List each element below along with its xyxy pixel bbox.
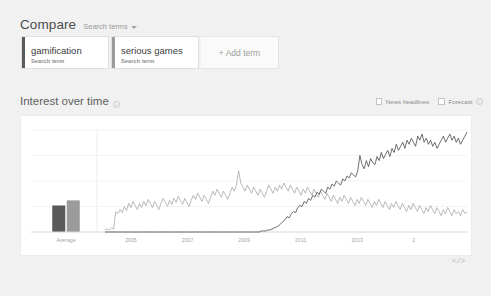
chart-controls: News headlines Forecast i xyxy=(376,98,483,105)
embed-icon: </> xyxy=(452,256,465,265)
search-scope-dropdown[interactable]: Search terms xyxy=(83,22,137,31)
series-line-gamification xyxy=(105,132,467,232)
compare-header: Compare Search terms xyxy=(20,17,137,32)
forecast-toggle[interactable]: Forecast i xyxy=(438,98,483,105)
search-term-subtitle: Search term xyxy=(121,57,198,65)
search-terms-row: gamification Search term serious games S… xyxy=(21,36,279,69)
search-term-card-1[interactable]: serious games Search term xyxy=(111,36,199,69)
search-term-name: gamification xyxy=(31,45,108,56)
chart-canvas: 200520072009201120132 Average xyxy=(21,116,473,257)
news-headlines-label: News headlines xyxy=(386,98,430,105)
checkbox-icon[interactable] xyxy=(438,98,445,105)
info-icon[interactable]: i xyxy=(476,98,483,105)
average-bar xyxy=(67,200,80,232)
checkbox-icon[interactable] xyxy=(376,98,383,105)
x-axis-tick-label: 2009 xyxy=(238,237,250,243)
google-trends-page: Compare Search terms gamification Search… xyxy=(0,0,491,296)
average-bar xyxy=(52,205,65,232)
x-axis-tick-label: 2 xyxy=(412,237,415,243)
info-icon[interactable]: i xyxy=(113,101,120,108)
add-term-button[interactable]: + Add term xyxy=(201,36,279,69)
search-term-subtitle: Search term xyxy=(31,57,108,65)
series-line-serious-games xyxy=(105,171,467,230)
search-term-card-0[interactable]: gamification Search term xyxy=(21,36,109,69)
x-axis-tick-labels: 200520072009201120132 xyxy=(125,237,415,243)
search-term-name: serious games xyxy=(121,45,198,56)
average-label: Average xyxy=(56,237,75,243)
search-scope-label: Search terms xyxy=(83,22,128,31)
x-axis-tick-label: 2011 xyxy=(295,237,306,243)
news-headlines-toggle[interactable]: News headlines xyxy=(376,98,430,105)
add-term-label: + Add term xyxy=(219,48,260,58)
average-bars-group xyxy=(52,200,80,232)
page-title: Compare xyxy=(20,17,76,32)
section-title: Interest over time xyxy=(20,95,109,107)
chart-gridlines xyxy=(31,130,467,207)
x-axis-tick-label: 2005 xyxy=(125,237,137,243)
forecast-label: Forecast xyxy=(448,98,472,105)
chevron-down-icon xyxy=(131,26,137,29)
x-axis-tick-label: 2007 xyxy=(182,237,194,243)
x-axis-tick-label: 2013 xyxy=(351,237,363,243)
interest-over-time-header: Interest over time i News headlines Fore… xyxy=(0,93,491,115)
interest-over-time-chart[interactable]: 200520072009201120132 Average xyxy=(20,115,472,256)
embed-button[interactable]: </> xyxy=(452,256,465,265)
